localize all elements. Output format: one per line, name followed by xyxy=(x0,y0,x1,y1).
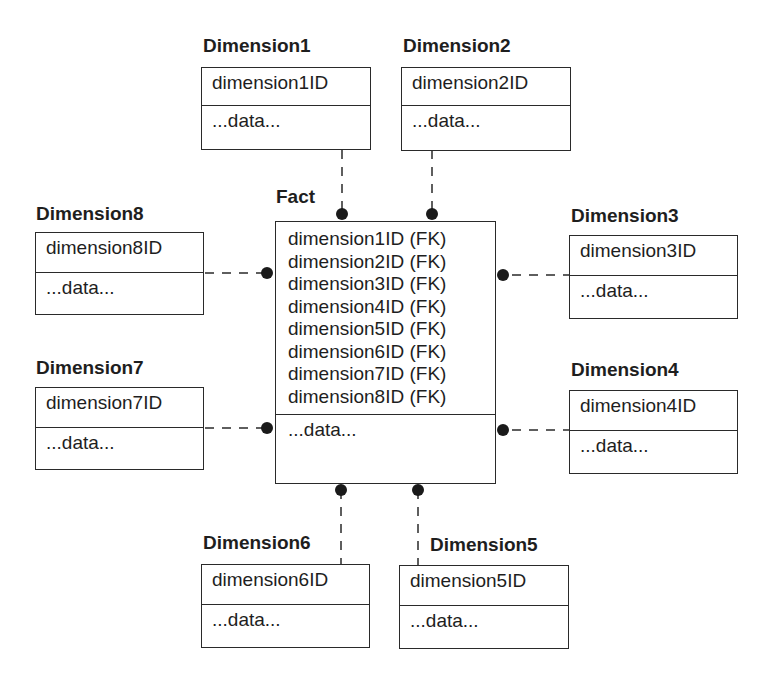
entity-attributes: ...data... xyxy=(400,606,568,632)
entity-attributes: ...data... xyxy=(570,276,737,302)
fact-attributes: ...data... xyxy=(276,415,495,441)
dot-dimension4 xyxy=(497,424,509,436)
entity-title: Dimension8 xyxy=(36,203,144,225)
fact-key: dimension6ID (FK) xyxy=(288,341,483,364)
entity-title: Dimension7 xyxy=(36,357,144,379)
fact-key: dimension3ID (FK) xyxy=(288,273,483,296)
entity-box: dimension7ID ...data... xyxy=(35,387,204,470)
entity-box: dimension2ID ...data... xyxy=(401,67,571,151)
entity-title: Dimension3 xyxy=(571,205,679,227)
entity-box: dimension3ID ...data... xyxy=(569,235,738,319)
dot-dimension3 xyxy=(497,269,509,281)
entity-title: Dimension4 xyxy=(571,359,679,381)
entity-title: Dimension5 xyxy=(430,534,538,556)
entity-key: dimension1ID xyxy=(202,68,370,106)
entity-box: dimension5ID ...data... xyxy=(399,565,569,649)
fact-title: Fact xyxy=(276,186,315,208)
fact-key: dimension7ID (FK) xyxy=(288,363,483,386)
entity-key: dimension7ID xyxy=(36,388,203,428)
fact-key: dimension5ID (FK) xyxy=(288,318,483,341)
entity-key: dimension2ID xyxy=(402,68,570,106)
fact-key: dimension4ID (FK) xyxy=(288,296,483,319)
entity-title: Dimension1 xyxy=(203,35,311,57)
entity-attributes: ...data... xyxy=(202,106,370,132)
entity-attributes: ...data... xyxy=(36,273,203,299)
fact-box: dimension1ID (FK) dimension2ID (FK) dime… xyxy=(275,221,496,484)
entity-box: dimension8ID ...data... xyxy=(35,232,204,315)
dot-dimension8 xyxy=(261,267,273,279)
dot-dimension7 xyxy=(261,422,273,434)
dot-dimension5 xyxy=(412,484,424,496)
fact-key: dimension1ID (FK) xyxy=(288,228,483,251)
entity-attributes: ...data... xyxy=(202,605,369,631)
entity-key: dimension4ID xyxy=(570,391,737,431)
entity-key: dimension6ID xyxy=(202,565,369,605)
dot-dimension1 xyxy=(336,208,348,220)
entity-attributes: ...data... xyxy=(36,428,203,454)
entity-title: Dimension6 xyxy=(203,532,311,554)
entity-key: dimension3ID xyxy=(570,236,737,276)
dot-dimension2 xyxy=(426,208,438,220)
fact-keys: dimension1ID (FK) dimension2ID (FK) dime… xyxy=(276,222,495,415)
entity-box: dimension4ID ...data... xyxy=(569,390,738,474)
fact-key: dimension8ID (FK) xyxy=(288,386,483,409)
entity-title: Dimension2 xyxy=(403,35,511,57)
entity-attributes: ...data... xyxy=(570,431,737,457)
entity-box: dimension1ID ...data... xyxy=(201,67,371,150)
fact-key: dimension2ID (FK) xyxy=(288,251,483,274)
entity-key: dimension5ID xyxy=(400,566,568,606)
entity-attributes: ...data... xyxy=(402,106,570,132)
entity-key: dimension8ID xyxy=(36,233,203,273)
dot-dimension6 xyxy=(335,484,347,496)
entity-box: dimension6ID ...data... xyxy=(201,564,370,648)
